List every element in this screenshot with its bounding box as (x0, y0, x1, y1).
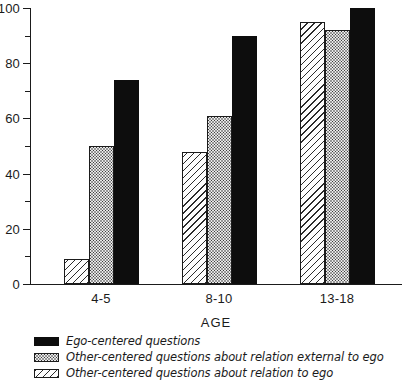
x-axis-line (30, 284, 402, 285)
plot-area (30, 8, 402, 284)
y-tick-label: 60 (5, 112, 20, 125)
bar (64, 259, 89, 284)
y-tick-major: 60 (23, 118, 30, 119)
y-tick-label: 100 (0, 2, 20, 15)
y-axis-ticks: 020406080100 (23, 8, 30, 285)
bar (350, 8, 375, 284)
legend-label: Other-centered questions about relation … (66, 368, 333, 380)
legend-swatch-dotted (34, 353, 59, 362)
x-axis-label: 13-18 (320, 292, 355, 305)
bar (207, 116, 232, 284)
y-tick-major: 0 (23, 284, 30, 285)
legend-label: Ego-centered questions (66, 336, 200, 348)
bar (114, 80, 139, 284)
legend-item: Ego-centered questions (34, 334, 405, 349)
y-tick-major: 80 (23, 63, 30, 64)
y-tick-major: 20 (23, 229, 30, 230)
x-axis-title: AGE (30, 315, 402, 330)
bar (325, 30, 350, 284)
bar (182, 152, 207, 284)
legend-item: Other-centered questions about relation … (34, 366, 405, 381)
legend-label: Other-centered questions about relation … (66, 352, 384, 364)
x-axis-label: 4-5 (91, 292, 111, 305)
legend-item: Other-centered questions about relation … (34, 350, 405, 365)
bar (300, 22, 325, 284)
y-tick-major: 100 (23, 8, 30, 9)
y-tick-label: 0 (13, 278, 20, 291)
bar (232, 36, 257, 284)
chart-legend: Ego-centered questionsOther-centered que… (34, 334, 405, 382)
x-axis-label: 8-10 (205, 292, 232, 305)
y-tick-major: 40 (23, 174, 30, 175)
y-tick-label: 40 (5, 167, 20, 180)
bar-chart: 020406080100 4-58-1013-18 AGE Ego-center… (0, 0, 405, 382)
y-tick-label: 20 (5, 222, 20, 235)
legend-swatch-hatched (34, 369, 59, 378)
legend-swatch-solid (34, 337, 59, 346)
y-tick-label: 80 (5, 57, 20, 70)
bar (89, 146, 114, 284)
